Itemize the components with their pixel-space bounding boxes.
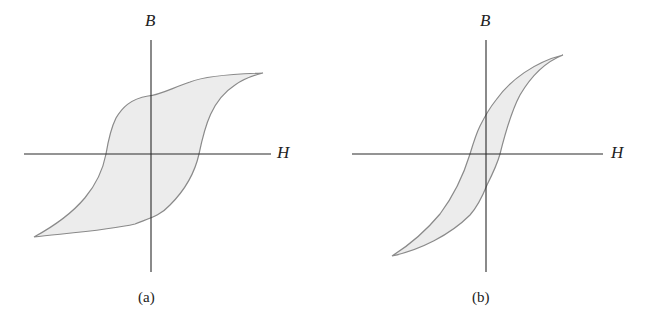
hysteresis-loop-b — [392, 55, 563, 256]
panel-a — [24, 40, 271, 272]
hysteresis-diagram — [0, 0, 647, 325]
b-axis-label-a: B — [145, 11, 155, 31]
hysteresis-loop-a — [34, 73, 263, 237]
panel-b — [352, 40, 603, 272]
caption-b: (b) — [472, 289, 490, 306]
caption-a: (a) — [138, 289, 155, 306]
h-axis-label-a: H — [277, 143, 289, 163]
b-axis-label-b: B — [480, 11, 490, 31]
h-axis-label-b: H — [611, 143, 623, 163]
